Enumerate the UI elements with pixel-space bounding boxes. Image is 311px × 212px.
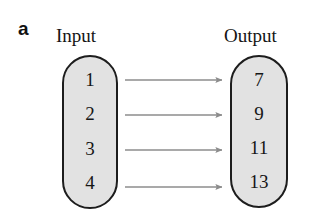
- function-machine-figure: a Input Output 1 2 3 4 7 9 11 13: [0, 0, 311, 212]
- output-column-heading: Output: [224, 26, 277, 45]
- input-column-heading: Input: [56, 26, 96, 45]
- input-value-3: 3: [64, 139, 116, 173]
- output-value-1: 7: [232, 70, 286, 104]
- input-set-capsule: 1 2 3 4: [62, 55, 118, 209]
- input-value-2: 2: [64, 104, 116, 138]
- output-value-3: 11: [232, 138, 286, 172]
- input-value-1: 1: [64, 70, 116, 104]
- input-value-4: 4: [64, 173, 116, 207]
- output-set-capsule: 7 9 11 13: [230, 55, 288, 208]
- output-value-2: 9: [232, 104, 286, 138]
- panel-label: a: [18, 19, 28, 38]
- output-value-4: 13: [232, 172, 286, 206]
